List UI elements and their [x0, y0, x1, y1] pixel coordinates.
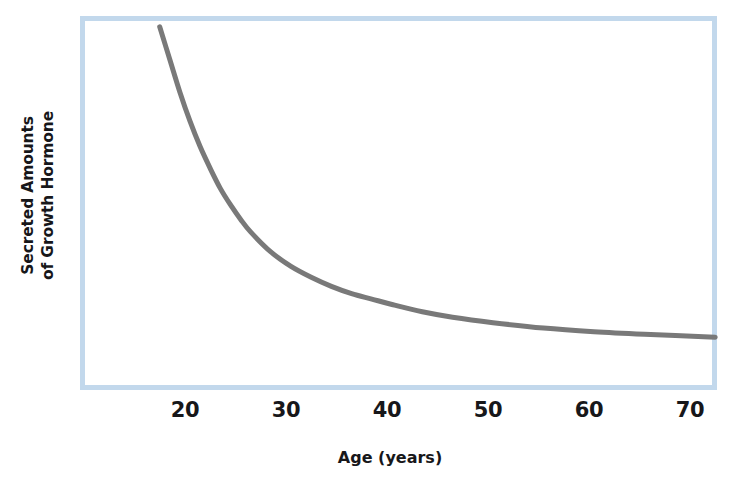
y-axis-title-text: Secreted Amounts of Growth Hormone: [19, 110, 60, 279]
plot-canvas: [85, 21, 722, 395]
chart-figure: Secreted Amounts of Growth Hormone 20304…: [0, 0, 738, 491]
x-axis-title-text: Age (years): [338, 448, 442, 467]
x-tick-label-30: 30: [256, 398, 316, 422]
growth-hormone-decay-curve: [160, 27, 716, 337]
y-axis-title-line-1: Secreted Amounts: [19, 110, 39, 279]
x-tick-label-50: 50: [458, 398, 518, 422]
y-axis-title-line-2: of Growth Hormone: [39, 110, 59, 279]
y-axis-title: Secreted Amounts of Growth Hormone: [0, 0, 78, 390]
plot-area-frame: [80, 16, 717, 390]
x-tick-label-70: 70: [660, 398, 720, 422]
x-tick-label-20: 20: [155, 398, 215, 422]
x-axis-tick-labels: 203040506070: [0, 398, 738, 432]
x-tick-label-60: 60: [559, 398, 619, 422]
x-tick-label-40: 40: [357, 398, 417, 422]
x-axis-title: Age (years): [0, 448, 738, 467]
